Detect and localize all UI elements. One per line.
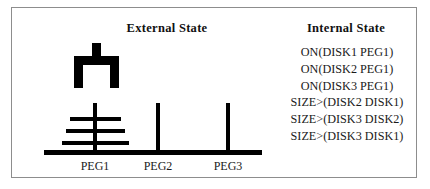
internal-state-title: Internal State — [267, 21, 425, 36]
disk3-on-peg1-icon — [62, 141, 129, 145]
peg1-label: PEG1 — [65, 159, 125, 174]
peg2-post-icon — [156, 103, 160, 151]
gripper-left-claw-icon — [74, 65, 83, 88]
hanoi-state-figure: External State Internal State PEG1 — [0, 0, 430, 189]
predicate-line: SIZE>(DISK2 DISK1) — [268, 94, 426, 111]
gripper-stem-icon — [92, 43, 101, 57]
gripper-crossbar-icon — [74, 56, 119, 65]
predicate-line: ON(DISK2 PEG1) — [268, 61, 426, 78]
peg3-label: PEG3 — [198, 159, 258, 174]
figure-border: External State Internal State PEG1 — [11, 7, 417, 178]
predicate-line: ON(DISK1 PEG1) — [268, 44, 426, 61]
predicate-line: ON(DISK3 PEG1) — [268, 78, 426, 95]
predicate-line: SIZE>(DISK3 DISK1) — [268, 128, 426, 145]
disk2-on-peg1-icon — [66, 129, 125, 133]
gripper-right-claw-icon — [110, 65, 119, 88]
peg2-label: PEG2 — [128, 159, 188, 174]
predicate-line: SIZE>(DISK3 DISK2) — [268, 111, 426, 128]
peg3-post-icon — [226, 103, 230, 151]
disk1-on-peg1-icon — [70, 117, 121, 121]
external-state-diagram: PEG1 PEG2 PEG3 — [24, 16, 268, 185]
internal-state-predicate-list: ON(DISK1 PEG1) ON(DISK2 PEG1) ON(DISK3 P… — [268, 44, 426, 145]
base-line-icon — [44, 150, 262, 155]
